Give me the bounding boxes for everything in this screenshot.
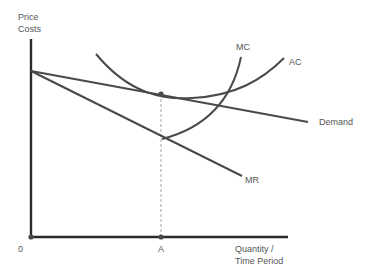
demand-label: Demand	[319, 116, 353, 128]
chart-canvas	[0, 0, 374, 276]
a-label: A	[158, 243, 164, 255]
y-axis-label-price: Price	[18, 11, 39, 23]
y-axis-label-costs: Costs	[18, 23, 41, 35]
origin-label: 0	[18, 243, 23, 255]
demand-curve	[31, 71, 308, 122]
ac-curve	[96, 54, 284, 98]
a-point	[158, 234, 163, 239]
x-axis-label-quantity: Quantity /	[235, 243, 274, 255]
origin-point	[28, 234, 33, 239]
x-axis-label-time-period: Time Period	[235, 255, 283, 267]
mc-label: MC	[236, 41, 250, 53]
mr-label: MR	[245, 174, 259, 186]
equilibrium-point	[158, 91, 163, 96]
ac-label: AC	[289, 56, 302, 68]
